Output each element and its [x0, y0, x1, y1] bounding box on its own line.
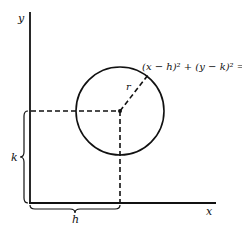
- radius-label: r: [126, 81, 132, 92]
- k-brace: [20, 111, 28, 203]
- x-axis-label: x: [206, 205, 213, 218]
- radius-line: [120, 75, 148, 111]
- y-axis-label: y: [17, 12, 25, 25]
- center-point: [118, 109, 122, 113]
- circle-equation: (x − h)² + (y − k)² = r²: [142, 61, 242, 72]
- h-brace: [30, 205, 120, 213]
- k-brace-label: k: [11, 151, 18, 164]
- h-brace-label: h: [72, 213, 79, 226]
- circle-equation-diagram: y x r (x − h)² + (y − k)² = r² k h: [0, 0, 242, 233]
